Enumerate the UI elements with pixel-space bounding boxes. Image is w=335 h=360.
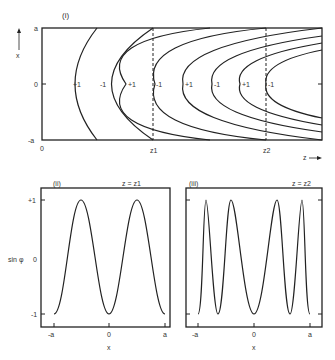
- x-tick-a: a: [163, 331, 167, 338]
- contour-curve: [183, 28, 322, 140]
- contour-label: -1: [156, 81, 162, 88]
- x-tick-0: 0: [107, 331, 111, 338]
- panel-iii-frame: [186, 188, 322, 327]
- contour-label: -1: [214, 81, 220, 88]
- contour-curve: [212, 36, 322, 132]
- panel-ii-y-axis-label: sin φ: [8, 256, 24, 264]
- contour-label: +1: [128, 81, 136, 88]
- y-tick-0: 0: [33, 256, 37, 263]
- x-tick-minus-a: -a: [192, 331, 198, 338]
- panel-ii-condition: z = z1: [122, 180, 141, 187]
- contour-label: +1: [73, 81, 81, 88]
- panel-iii-x-axis-label: x: [252, 344, 256, 351]
- arrow-head-icon: [17, 28, 21, 33]
- panel-ii-x-axis-label: x: [107, 344, 111, 351]
- panel-iii-condition: z = z2: [292, 180, 311, 187]
- y-tick-minus-a: -a: [28, 137, 34, 144]
- panel-i-x-axis-label: z: [303, 154, 307, 161]
- contour-label: -1: [100, 81, 106, 88]
- panel-ii-label: (ii): [53, 180, 61, 188]
- x-tick-a: a: [308, 331, 312, 338]
- x-tick-z1: z1: [150, 147, 158, 154]
- contour-label: +1: [185, 81, 193, 88]
- x-tick-z2: z2: [263, 147, 271, 154]
- y-tick-minus1: -1: [31, 311, 37, 318]
- contour-label: +1: [242, 81, 250, 88]
- sine-curve-z1: [54, 200, 165, 314]
- y-tick-0: 0: [34, 81, 38, 88]
- contour-curve: [239, 43, 322, 125]
- panel-i: (i) x a 0 -a +1 -1 +1 -1 +1 -1 +1 -1: [16, 11, 322, 161]
- x-tick-0: 0: [252, 331, 256, 338]
- panel-ii: (ii) z = z1 sin φ +1 0 -1 -a 0 a x: [8, 180, 170, 351]
- sine-curve-z2: [198, 200, 310, 314]
- x-tick-minus-a: -a: [48, 331, 54, 338]
- panel-i-label: (i): [62, 11, 69, 20]
- x-tick-0: 0: [40, 145, 44, 152]
- y-tick-a: a: [34, 25, 38, 32]
- figure: (i) x a 0 -a +1 -1 +1 -1 +1 -1 +1 -1: [0, 0, 335, 360]
- panel-iii-label: (iii): [189, 180, 198, 188]
- panel-iii: (iii) z = z2 -a 0 a x: [186, 180, 322, 351]
- y-tick-plus1: +1: [28, 197, 36, 204]
- contour-label: -1: [268, 81, 274, 88]
- panel-i-y-axis-label: x: [16, 52, 20, 59]
